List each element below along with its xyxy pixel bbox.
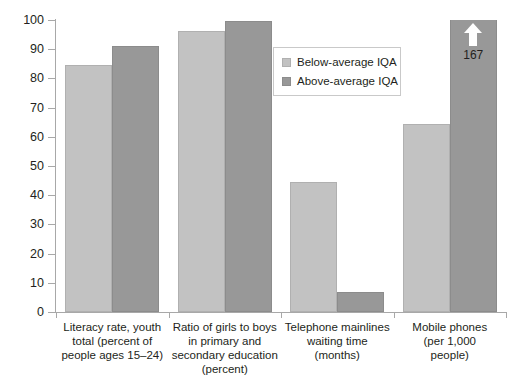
category-label-line: (percent) xyxy=(167,362,284,376)
category-label: Ratio of girls to boysin primary andseco… xyxy=(167,320,284,376)
x-axis-tick xyxy=(281,312,282,318)
category-label-line: Telephone mainlines xyxy=(279,320,396,334)
category-label-line: Mobile phones xyxy=(392,320,509,334)
y-axis-tick xyxy=(48,254,55,255)
y-axis-tick-label: 50 xyxy=(4,160,44,173)
legend-swatch-icon-above-average xyxy=(282,77,291,86)
y-axis-tick-label: 40 xyxy=(4,189,44,202)
y-axis-tick-label: 80 xyxy=(4,72,44,85)
bar-below-average xyxy=(178,31,225,312)
y-axis-tick xyxy=(48,312,55,313)
arrow-shaft xyxy=(469,31,477,46)
bar-above-average xyxy=(450,20,497,312)
y-axis-tick-label: 20 xyxy=(4,248,44,261)
y-axis-tick xyxy=(48,137,55,138)
bar-below-average xyxy=(65,65,112,312)
bar-below-average xyxy=(290,182,337,312)
y-axis-tick xyxy=(48,78,55,79)
y-axis-tick xyxy=(48,224,55,225)
category-label-line: Ratio of girls to boys xyxy=(167,320,284,334)
category-label-line: (per 1,000 xyxy=(392,334,509,348)
y-axis-tick xyxy=(48,49,55,50)
bar-above-average xyxy=(225,21,272,312)
legend-swatch-icon-below-average xyxy=(282,58,291,67)
y-axis-tick xyxy=(48,195,55,196)
category-label-line: people) xyxy=(392,348,509,362)
legend-item-above-average: Above-average IQA xyxy=(282,73,392,90)
x-axis-tick xyxy=(169,312,170,318)
category-label-line: waiting time xyxy=(279,334,396,348)
category-label-line: total (percent of xyxy=(54,334,171,348)
x-axis-tick xyxy=(394,312,395,318)
y-axis-tick-label: 0 xyxy=(4,306,44,319)
legend-label-below-average: Below-average IQA xyxy=(297,57,397,69)
y-axis-tick xyxy=(48,166,55,167)
y-axis-tick-label: 10 xyxy=(4,277,44,290)
category-label-line: Literacy rate, youth xyxy=(54,320,171,334)
overflow-value-label: 167 xyxy=(453,49,493,61)
category-label-line: (months) xyxy=(279,348,396,362)
y-axis-tick-label: 30 xyxy=(4,218,44,231)
bar-above-average xyxy=(112,46,159,312)
x-axis-tick xyxy=(56,312,57,318)
bar-chart: 0102030405060708090100 167 Below-average… xyxy=(0,0,518,389)
y-axis-tick-label: 70 xyxy=(4,102,44,115)
category-label: Literacy rate, youthtotal (percent ofpeo… xyxy=(54,320,171,362)
category-label-line: people ages 15–24) xyxy=(54,348,171,362)
category-label: Telephone mainlineswaiting time(months) xyxy=(279,320,396,362)
y-axis-tick xyxy=(48,108,55,109)
chart-legend: Below-average IQA Above-average IQA xyxy=(273,47,401,96)
y-axis-tick-label: 100 xyxy=(4,14,44,27)
y-axis-tick xyxy=(48,283,55,284)
arrow-head xyxy=(464,23,482,33)
bar-below-average xyxy=(403,124,450,312)
bar-above-average xyxy=(337,292,384,312)
category-label-line: secondary education xyxy=(167,348,284,362)
overflow-annotation: 167 xyxy=(453,23,493,61)
category-label: Mobile phones(per 1,000people) xyxy=(392,320,509,362)
x-axis-tick xyxy=(506,312,507,318)
y-axis-tick xyxy=(48,20,55,21)
legend-label-above-average: Above-average IQA xyxy=(297,76,398,88)
y-axis-tick-label: 90 xyxy=(4,43,44,56)
category-label-line: in primary and xyxy=(167,334,284,348)
arrow-up-icon xyxy=(453,23,493,46)
legend-item-below-average: Below-average IQA xyxy=(282,54,392,71)
y-axis-tick-label: 60 xyxy=(4,131,44,144)
